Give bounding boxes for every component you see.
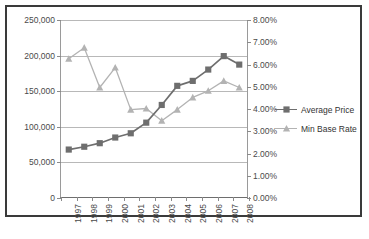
data-point-marker bbox=[190, 78, 196, 84]
data-point-marker bbox=[205, 66, 211, 72]
x-axis-tick bbox=[218, 197, 219, 201]
plot-area: 050,000100,000150,000200,000250,000 0.00… bbox=[60, 20, 248, 198]
right-axis-tick-label: 8.00% bbox=[253, 15, 277, 25]
data-point-marker bbox=[174, 83, 180, 89]
right-axis-tick-label: 2.00% bbox=[253, 149, 277, 159]
x-axis-tick-label: 2006 bbox=[214, 204, 224, 223]
data-point-marker bbox=[65, 55, 72, 62]
legend-key-icon bbox=[275, 104, 297, 115]
data-point-marker bbox=[283, 125, 290, 132]
right-axis-tick-label: 4.00% bbox=[253, 104, 277, 114]
right-axis-tick bbox=[247, 65, 251, 66]
data-point-marker bbox=[236, 84, 243, 91]
data-point-marker bbox=[128, 130, 134, 136]
data-point-marker bbox=[221, 53, 227, 59]
x-axis-tick-label: 1997 bbox=[73, 204, 83, 223]
data-point-marker bbox=[283, 106, 289, 112]
right-axis-tick-label: 0.00% bbox=[253, 193, 277, 203]
right-axis-tick bbox=[247, 109, 251, 110]
right-axis-tick bbox=[247, 154, 251, 155]
chart-frame: 050,000100,000150,000200,000250,000 0.00… bbox=[5, 5, 362, 217]
left-axis-tick-label: 200,000 bbox=[24, 51, 55, 61]
data-point-marker bbox=[236, 62, 242, 68]
legend-item-label: Min Base Rate bbox=[301, 124, 357, 134]
x-axis-tick bbox=[124, 197, 125, 201]
x-axis-tick-label: 2005 bbox=[198, 204, 208, 223]
series-line bbox=[69, 56, 240, 149]
left-axis-tick-label: 150,000 bbox=[24, 86, 55, 96]
x-axis-tick bbox=[108, 197, 109, 201]
left-axis-tick-label: 0 bbox=[50, 193, 55, 203]
legend-item-label: Average Price bbox=[301, 105, 354, 115]
x-axis-tick-label: 2008 bbox=[245, 204, 255, 223]
right-axis-tick bbox=[247, 87, 251, 88]
data-point-marker bbox=[112, 134, 118, 140]
right-axis-tick-label: 3.00% bbox=[253, 126, 277, 136]
x-axis-tick-label: 1999 bbox=[104, 204, 114, 223]
x-axis-tick bbox=[92, 197, 93, 201]
x-axis-tick-label: 2002 bbox=[151, 204, 161, 223]
x-axis-tick-label: 2007 bbox=[230, 204, 240, 223]
data-point-marker bbox=[189, 94, 196, 101]
right-axis-tick-label: 6.00% bbox=[253, 60, 277, 70]
data-point-marker bbox=[97, 140, 103, 146]
x-axis-tick bbox=[61, 197, 62, 201]
x-axis-tick bbox=[171, 197, 172, 201]
x-axis-tick-label: 2001 bbox=[136, 204, 146, 223]
x-axis-tick-label: 2000 bbox=[120, 204, 130, 223]
left-axis-tick-label: 50,000 bbox=[29, 157, 55, 167]
data-point-marker bbox=[220, 77, 227, 84]
data-point-marker bbox=[143, 120, 149, 126]
x-axis-tick-label: 2004 bbox=[183, 204, 193, 223]
legend-item[interactable]: Average Price bbox=[275, 100, 361, 119]
left-axis-tick-label: 100,000 bbox=[24, 122, 55, 132]
left-axis-tick-label: 250,000 bbox=[24, 15, 55, 25]
x-axis-tick-label: 1998 bbox=[89, 204, 99, 223]
data-point-marker bbox=[81, 144, 87, 150]
right-axis-tick-label: 5.00% bbox=[253, 82, 277, 92]
chart-title bbox=[7, 0, 360, 6]
data-point-marker bbox=[205, 87, 212, 94]
series-line bbox=[69, 48, 240, 121]
right-axis-tick bbox=[247, 20, 251, 21]
x-axis-tick bbox=[77, 197, 78, 201]
right-axis-tick-label: 1.00% bbox=[253, 171, 277, 181]
x-axis-tick bbox=[233, 197, 234, 201]
x-axis-tick bbox=[249, 197, 250, 201]
legend-key-icon bbox=[275, 123, 297, 134]
right-axis-tick bbox=[247, 131, 251, 132]
right-axis-tick-label: 7.00% bbox=[253, 37, 277, 47]
x-axis-tick bbox=[202, 197, 203, 201]
data-point-marker bbox=[81, 44, 88, 51]
x-axis-tick bbox=[155, 197, 156, 201]
right-axis-tick bbox=[247, 176, 251, 177]
legend-item[interactable]: Min Base Rate bbox=[275, 119, 361, 138]
data-point-marker bbox=[112, 64, 119, 71]
chart-legend: Average PriceMin Base Rate bbox=[275, 100, 361, 138]
right-axis-tick bbox=[247, 42, 251, 43]
x-axis-tick-label: 2003 bbox=[167, 204, 177, 223]
data-point-marker bbox=[159, 102, 165, 108]
x-axis-tick bbox=[186, 197, 187, 201]
series-plot bbox=[61, 20, 247, 197]
data-point-marker bbox=[66, 146, 72, 152]
x-axis-tick bbox=[139, 197, 140, 201]
